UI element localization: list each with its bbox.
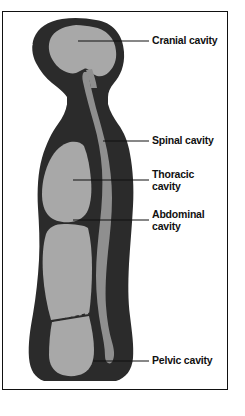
pelvic-cavity-region: [49, 316, 94, 376]
label-spinal-cavity: Spinal cavity: [152, 135, 214, 147]
label-abdominal-cavity: Abdominal cavity: [152, 209, 204, 232]
label-pelvic-cavity: Pelvic cavity: [152, 355, 212, 367]
body-cavities-figure: Cranial cavity Spinal cavity Thoracic ca…: [0, 0, 245, 416]
label-thoracic-cavity: Thoracic cavity: [152, 169, 194, 192]
abdominal-cavity-region: [43, 224, 92, 320]
label-cranial-cavity: Cranial cavity: [152, 35, 218, 47]
